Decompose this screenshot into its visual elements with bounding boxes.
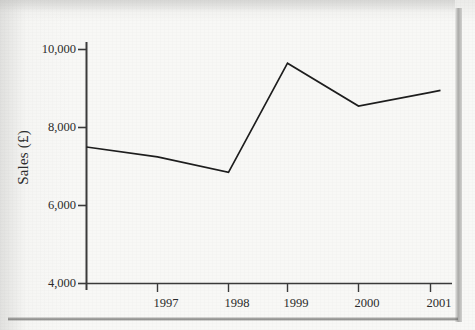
x-tick-label-2001: 2001	[427, 296, 452, 311]
line-chart: Sales (£) 10,000 8,000 6,000 4,000 1997 …	[0, 0, 475, 330]
x-tick-label-1999: 1999	[284, 296, 309, 311]
sales-data-line	[87, 63, 441, 172]
y-tick-label-10000: 10,000	[18, 42, 76, 57]
x-tick-label-1997: 1997	[154, 296, 179, 311]
x-tick-label-2000: 2000	[355, 296, 380, 311]
scanned-chart-page: Sales (£) 10,000 8,000 6,000 4,000 1997 …	[0, 0, 475, 330]
y-tick-label-8000: 8,000	[18, 120, 76, 135]
scan-page-edge-right	[455, 8, 462, 322]
scan-page-edge-bottom	[8, 317, 458, 321]
y-tick-label-6000: 6,000	[18, 198, 76, 213]
x-tick-label-1998: 1998	[225, 296, 250, 311]
y-tick-label-4000: 4,000	[18, 276, 76, 291]
y-axis-title-text: Sales (£)	[15, 130, 32, 185]
